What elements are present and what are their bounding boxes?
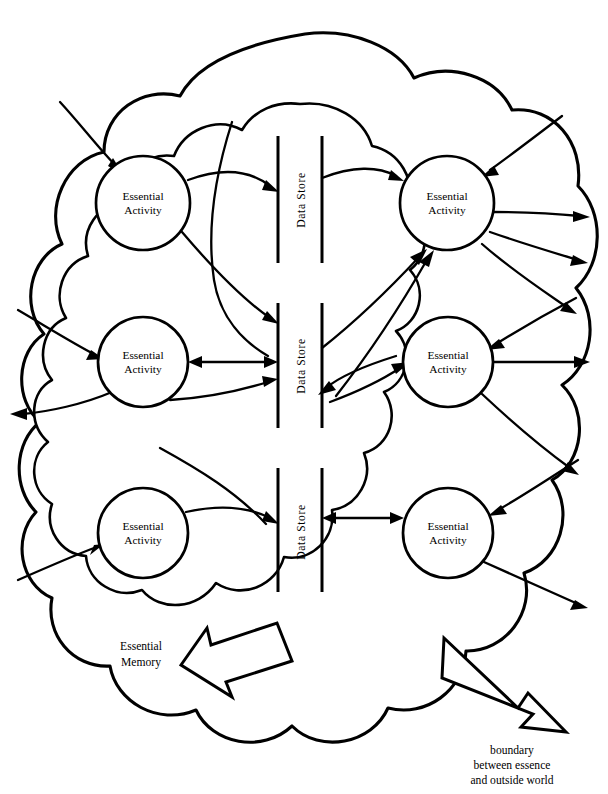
diagram-canvas: Data Store Data Store Data Store [0,0,608,794]
activity-bottom-left-circle[interactable] [98,488,188,578]
activity-middle-right-label-1: Essential [427,349,468,361]
data-store-bottom-label: Data Store [295,504,308,559]
block-arrow-boundary [442,638,566,732]
data-store-top-label: Data Store [295,172,308,227]
boundary-callout: boundary between essence and outside wor… [470,744,553,787]
activity-bottom-right-label-2: Activity [429,534,467,546]
activity-middle-right-circle[interactable] [403,317,493,407]
activity-bottom-left-label-1: Essential [122,520,163,532]
activity-middle-left-circle[interactable] [98,317,188,407]
essential-memory-label-2: Memory [121,656,161,669]
activity-middle-right-label-2: Activity [429,363,467,375]
activity-bottom-left-label-2: Activity [124,534,162,546]
activity-bottom-right-circle[interactable] [403,488,493,578]
boundary-label-3: and outside world [470,774,553,787]
activity-top-right[interactable]: Essential Activity [400,156,494,250]
activity-top-right-label-2: Activity [428,204,466,216]
activity-top-left-label-2: Activity [124,204,162,216]
activity-bottom-right[interactable]: Essential Activity [403,488,493,578]
essential-memory-label-1: Essential [120,640,162,653]
activity-middle-left-label-2: Activity [124,363,162,375]
activity-bottom-left[interactable]: Essential Activity [98,488,188,578]
activity-top-right-circle[interactable] [400,156,494,250]
essential-model-diagram: Data Store Data Store Data Store [0,0,608,794]
boundary-label-1: boundary [490,744,534,757]
activity-middle-left-label-1: Essential [122,349,163,361]
activity-middle-right[interactable]: Essential Activity [403,317,493,407]
arrowhead-out-middle-left [10,408,27,420]
activity-top-right-label-1: Essential [426,190,467,202]
activity-middle-left[interactable]: Essential Activity [98,317,188,407]
boundary-label-2: between essence [474,759,551,772]
activity-bottom-right-label-1: Essential [427,520,468,532]
activity-top-left[interactable]: Essential Activity [96,156,190,250]
activity-top-left-label-1: Essential [122,190,163,202]
activity-top-left-circle[interactable] [96,156,190,250]
data-store-middle-label: Data Store [295,338,308,393]
